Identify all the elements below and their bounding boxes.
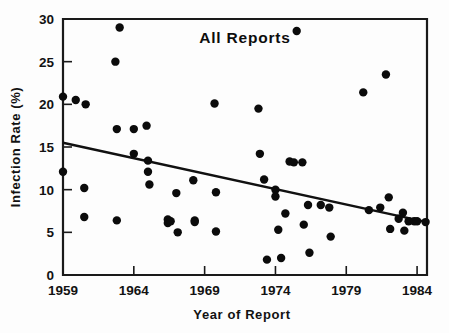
data-point <box>113 125 121 133</box>
data-point <box>376 203 384 211</box>
x-axis-ticks <box>134 266 417 275</box>
data-point <box>317 201 325 209</box>
data-point <box>281 209 289 217</box>
data-point <box>385 193 393 201</box>
data-point <box>166 217 174 225</box>
x-axis-tick-labels: 195919641969197419791984 <box>48 283 433 298</box>
data-point <box>72 96 80 104</box>
data-point <box>212 188 220 196</box>
data-point <box>81 100 89 108</box>
data-point <box>145 180 153 188</box>
data-point <box>115 23 123 31</box>
data-point <box>260 175 268 183</box>
y-axis-tick-labels: 051015202530 <box>39 12 55 283</box>
chart-screenshot: 051015202530 195919641969197419791984 Al… <box>0 0 449 333</box>
data-point <box>130 150 138 158</box>
x-tick-label: 1979 <box>331 283 361 298</box>
data-point <box>80 213 88 221</box>
data-point <box>274 226 282 234</box>
data-point <box>386 225 394 233</box>
data-point <box>189 176 197 184</box>
data-point <box>359 88 367 96</box>
data-point <box>59 168 67 176</box>
data-point <box>399 209 407 217</box>
data-point <box>293 27 301 35</box>
data-point <box>305 249 313 257</box>
data-point <box>113 216 121 224</box>
y-tick-label: 25 <box>39 55 55 70</box>
data-point <box>111 57 119 65</box>
data-point <box>254 104 262 112</box>
y-tick-label: 0 <box>46 268 54 283</box>
data-point <box>144 168 152 176</box>
x-tick-label: 1984 <box>402 283 433 298</box>
x-axis-title: Year of Report <box>193 307 290 322</box>
data-point <box>365 206 373 214</box>
data-point <box>298 158 306 166</box>
y-axis-ticks <box>63 62 72 233</box>
y-tick-label: 10 <box>39 183 54 198</box>
data-point <box>144 156 152 164</box>
data-point <box>174 228 182 236</box>
data-point <box>421 218 429 226</box>
data-point <box>191 218 199 226</box>
data-point <box>142 121 150 129</box>
data-point <box>277 254 285 262</box>
data-point <box>400 226 408 234</box>
x-tick-label: 1969 <box>190 283 220 298</box>
chart-title: All Reports <box>199 29 290 46</box>
data-point <box>300 220 308 228</box>
data-point <box>212 227 220 235</box>
data-point <box>172 189 180 197</box>
x-tick-label: 1974 <box>260 283 291 298</box>
data-point <box>130 125 138 133</box>
plot-frame <box>63 19 427 275</box>
data-point <box>263 255 271 263</box>
data-point <box>326 232 334 240</box>
data-point <box>413 217 421 225</box>
y-tick-label: 15 <box>39 140 55 155</box>
data-point <box>59 92 67 100</box>
data-point <box>382 70 390 78</box>
data-point <box>271 185 279 193</box>
data-point <box>304 201 312 209</box>
y-tick-label: 30 <box>39 12 54 27</box>
y-axis-title: Infection Rate (%) <box>8 87 23 208</box>
data-point <box>80 184 88 192</box>
data-point <box>290 158 298 166</box>
data-point <box>325 203 333 211</box>
y-tick-label: 20 <box>39 97 54 112</box>
data-points <box>59 23 430 264</box>
data-point <box>256 150 264 158</box>
y-tick-label: 5 <box>46 225 54 240</box>
data-point <box>210 99 218 107</box>
x-tick-label: 1959 <box>48 283 78 298</box>
scatter-chart: 051015202530 195919641969197419791984 Al… <box>0 0 449 333</box>
x-tick-label: 1964 <box>119 283 150 298</box>
